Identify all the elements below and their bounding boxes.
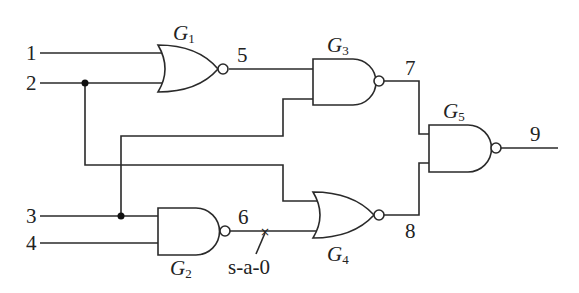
gate-g1-nor — [158, 45, 228, 92]
net-label-8: 8 — [405, 219, 416, 243]
gate-label-g2: G2 — [170, 256, 192, 281]
wire-net-7 — [384, 81, 429, 134]
gate-g2-nand — [158, 208, 230, 255]
fault-x-icon: × — [260, 225, 270, 239]
input-label-2: 2 — [26, 71, 37, 95]
gate-label-g3: G3 — [327, 33, 349, 58]
gate-label-g5: G5 — [443, 99, 465, 124]
input-label-3: 3 — [26, 204, 37, 228]
net-label-6: 6 — [238, 205, 249, 229]
gate-label-g4: G4 — [327, 242, 349, 267]
logic-circuit-diagram: × s-a-0 1 2 3 4 5 6 7 8 9 G1 G2 G3 G4 G5 — [0, 0, 579, 293]
net-label-7: 7 — [405, 56, 416, 80]
gate-g4-nor — [313, 192, 384, 238]
input-label-4: 4 — [26, 231, 37, 255]
gate-g3-nand — [313, 59, 384, 105]
fault-marker: × s-a-0 — [228, 225, 270, 279]
wire-3-to-g3 — [121, 99, 313, 216]
junction-dot-3 — [118, 213, 125, 220]
gate-label-g1: G1 — [173, 21, 195, 46]
junction-dot-2 — [82, 80, 89, 87]
net-label-5: 5 — [237, 43, 248, 67]
wire-net-8 — [384, 163, 429, 215]
input-label-1: 1 — [26, 41, 37, 65]
fault-label: s-a-0 — [228, 255, 270, 279]
gate-g5-nand — [429, 125, 501, 172]
net-label-9: 9 — [530, 122, 541, 146]
